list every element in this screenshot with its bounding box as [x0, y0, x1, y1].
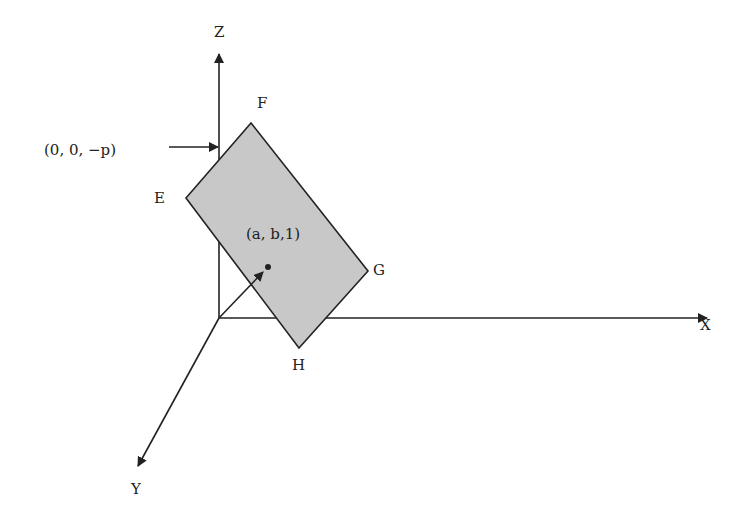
y-axis-label: Y	[131, 482, 141, 497]
x-axis-label: X	[700, 318, 711, 333]
z-intercept-label: (0, 0, −p)	[44, 143, 116, 158]
diagram-canvas: Z X Y F E G H (a, b,1) (0, 0, −p)	[0, 0, 755, 530]
z-axis-label: Z	[214, 25, 224, 40]
center-point	[265, 264, 271, 270]
normal-vector-arrow	[219, 272, 263, 318]
corner-label-e: E	[154, 191, 165, 206]
center-point-label: (a, b,1)	[246, 227, 300, 242]
corner-label-g: G	[373, 263, 385, 278]
corner-label-h: H	[292, 358, 305, 373]
corner-label-f: F	[257, 96, 267, 111]
y-axis	[138, 318, 219, 466]
